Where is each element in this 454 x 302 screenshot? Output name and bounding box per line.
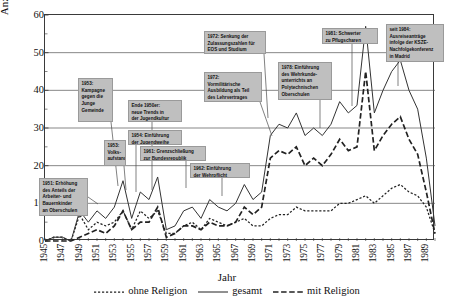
annotation-line: des Lehrvertrages bbox=[208, 95, 259, 102]
annotation-line: Nachfolgekonferenz bbox=[390, 47, 441, 54]
annotation-line: infolge der KSZE- bbox=[390, 40, 441, 47]
y-axis-title: Anzahl Geschädigter bbox=[0, 0, 10, 58]
chart-legend: ohne Religiongesamtmit Religion bbox=[0, 285, 454, 296]
annotation-line: seit 1984: bbox=[390, 27, 441, 34]
annotation-line: 1981: Schwerter bbox=[326, 31, 375, 38]
legend-item: mit Religion bbox=[273, 285, 360, 296]
y-tick-label: 20 bbox=[18, 159, 44, 170]
x-tick-label: 1963 bbox=[195, 244, 205, 262]
annotation-line: 1972: Senkung der bbox=[208, 34, 263, 41]
legend-key-dotted bbox=[94, 287, 124, 295]
x-tick-label: 1987 bbox=[403, 244, 413, 262]
annotation-line: Gemeinde bbox=[82, 108, 110, 115]
annotation-callout: 1951: Erhöhungdes Anteils derArbeiter- u… bbox=[39, 178, 88, 216]
annotation-line: 1953: bbox=[108, 143, 123, 150]
annotation-line: 1962: Einführung bbox=[194, 166, 247, 173]
y-tick-label: 60 bbox=[18, 9, 44, 20]
annotation-line: 1954: Einführung bbox=[132, 133, 179, 140]
y-tick-label: 40 bbox=[18, 84, 44, 95]
x-tick-label: 1961 bbox=[178, 244, 188, 262]
x-tick-label: 1959 bbox=[160, 244, 170, 262]
annotation-line: 1972: bbox=[208, 75, 259, 82]
annotation-callout: 1961: Grenzschließungzur Bundesrepublik bbox=[140, 146, 206, 161]
annotation-line: des Anteils der bbox=[43, 188, 85, 195]
annotation-line: Zulassungszahlen für bbox=[208, 41, 263, 48]
x-tick-label: 1973 bbox=[282, 244, 292, 262]
annotation-line: in Madrid bbox=[390, 54, 441, 61]
x-tick-label: 1965 bbox=[212, 244, 222, 262]
annotation-callout: 1953:Kampagnegegen dieJungeGemeinde bbox=[78, 78, 113, 122]
annotation-line: Ausbildung als Teil bbox=[208, 88, 259, 95]
x-tick-label: 1979 bbox=[334, 244, 344, 262]
annotation-line: EOS und Studium bbox=[208, 47, 263, 54]
annotation-line: zu Pflugscharen bbox=[326, 38, 375, 44]
annotation-callout: 1972: Senkung derZulassungszahlen fürEOS… bbox=[204, 31, 266, 54]
annotation-line: Ende 1950er: bbox=[132, 103, 179, 110]
annotation-callout: 1972:VormilitärischeAusbildung als Teild… bbox=[204, 72, 262, 102]
annotation-line: 1953: bbox=[82, 81, 110, 88]
x-tick-label: 1957 bbox=[143, 244, 153, 262]
x-tick-label: 1977 bbox=[316, 244, 326, 262]
annotation-callout: 1954: Einführungder Jugendweihe bbox=[128, 130, 182, 145]
y-tick-label: 50 bbox=[18, 46, 44, 57]
x-tick-label: 1967 bbox=[230, 244, 240, 262]
annotation-line: der Wehrpflicht bbox=[194, 173, 247, 178]
annotation-line: 1951: Erhöhung bbox=[43, 181, 85, 188]
x-tick-label: 1971 bbox=[264, 244, 274, 262]
x-tick-label: 1953 bbox=[108, 244, 118, 262]
annotation-line: Kampagne bbox=[82, 88, 110, 95]
annotation-line: Volks- bbox=[108, 150, 123, 157]
y-tick-label: 30 bbox=[18, 122, 44, 133]
x-tick-label: 1985 bbox=[386, 244, 396, 262]
legend-label: ohne Religion bbox=[128, 285, 187, 296]
x-tick-label: 1951 bbox=[91, 244, 101, 262]
annotation-line: 1978: Einführung bbox=[282, 65, 329, 72]
x-axis-title: Jahr bbox=[0, 271, 454, 283]
annotation-line: an Oberschulen bbox=[43, 208, 85, 215]
annotation-line: des Wehrkunde- bbox=[282, 72, 329, 79]
annotation-callout: 1953:Volks-aufstand bbox=[104, 140, 126, 166]
annotation-line: Polytechnischen bbox=[282, 85, 329, 92]
annotation-line: Ausreiseanträge bbox=[390, 34, 441, 41]
x-tick-label: 1969 bbox=[247, 244, 257, 262]
annotation-line: neue Trends in bbox=[132, 110, 179, 117]
x-tick-label: 1975 bbox=[299, 244, 309, 262]
x-tick-label: 1949 bbox=[74, 244, 84, 262]
x-tick-label: 1981 bbox=[351, 244, 361, 262]
legend-label: mit Religion bbox=[307, 285, 360, 296]
legend-key-dashed bbox=[273, 287, 303, 295]
annotation-line: Oberschulen bbox=[282, 92, 329, 99]
annotation-line: aufstand bbox=[108, 156, 123, 163]
annotation-callout: 1981: Schwerterzu Pflugscharen bbox=[322, 28, 378, 44]
annotation-line: Vormilitärische bbox=[208, 82, 259, 89]
x-tick-label: 1945 bbox=[39, 244, 49, 262]
annotation-line: zur Bundesrepublik bbox=[144, 156, 203, 161]
annotation-line: Junge bbox=[82, 101, 110, 108]
annotation-callout: 1978: Einführungdes Wehrkunde-unterricht… bbox=[278, 62, 332, 100]
annotation-line: gegen die bbox=[82, 94, 110, 101]
x-tick-label: 1989 bbox=[420, 244, 430, 262]
legend-item: ohne Religion bbox=[94, 285, 187, 296]
annotation-line: unterrichts an bbox=[282, 78, 329, 85]
x-tick-label: 1983 bbox=[368, 244, 378, 262]
legend-label: gesamt bbox=[232, 285, 262, 296]
legend-key-solid bbox=[198, 287, 228, 295]
series-line bbox=[45, 26, 435, 241]
annotation-callout: Ende 1950er:neue Trends inder Jugendkult… bbox=[128, 100, 182, 122]
annotation-line: 1961: Grenzschließung bbox=[144, 149, 203, 156]
annotation-line: der Jugendkultur bbox=[132, 116, 179, 122]
annotation-callout: seit 1984:Ausreiseanträgeinfolge der KSZ… bbox=[386, 24, 444, 62]
x-tick-label: 1947 bbox=[56, 244, 66, 262]
chart-container: Anzahl Geschädigter 0102030405060 194519… bbox=[0, 0, 454, 302]
x-tick-label: 1955 bbox=[126, 244, 136, 262]
annotation-line: Arbeiter- und bbox=[43, 194, 85, 201]
annotation-line: Bauernkinder bbox=[43, 201, 85, 208]
legend-item: gesamt bbox=[198, 285, 262, 296]
annotation-callout: 1962: Einführungder Wehrpflicht bbox=[190, 163, 250, 178]
annotation-line: der Jugendweihe bbox=[132, 140, 179, 145]
